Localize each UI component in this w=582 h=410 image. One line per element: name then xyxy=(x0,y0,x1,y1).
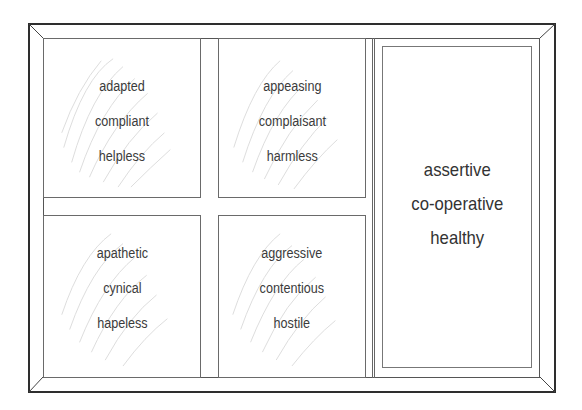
quadrant-bottom-middle: aggressive contentious hostile xyxy=(218,215,366,378)
quadrant-line: harmless xyxy=(266,139,317,174)
divider-line xyxy=(372,38,373,378)
quadrant-line: contentious xyxy=(260,271,324,306)
highlight-box: assertive co-operative healthy xyxy=(382,46,532,368)
quadrant-line: cynical xyxy=(103,271,142,306)
quadrant-line: aggressive xyxy=(262,236,323,271)
divider-line xyxy=(374,38,375,378)
quadrant-line: appeasing xyxy=(263,69,321,104)
quadrant-line: complaisant xyxy=(258,104,325,139)
highlight-line: co-operative xyxy=(411,187,503,221)
quadrant-top-middle: appeasing complaisant harmless xyxy=(218,38,366,198)
quadrant-line: adapted xyxy=(99,69,145,104)
highlight-line: assertive xyxy=(424,153,491,187)
quadrant-line: compliant xyxy=(95,104,149,139)
quadrant-line: hostile xyxy=(274,306,310,341)
highlight-line: healthy xyxy=(430,221,484,255)
quadrant-line: apathetic xyxy=(96,236,147,271)
quadrant-bottom-left: apathetic cynical hapeless xyxy=(43,215,201,378)
quadrant-line: helpless xyxy=(99,139,145,174)
quadrant-line: hapeless xyxy=(97,306,147,341)
quadrant-top-left: adapted compliant helpless xyxy=(43,38,201,198)
